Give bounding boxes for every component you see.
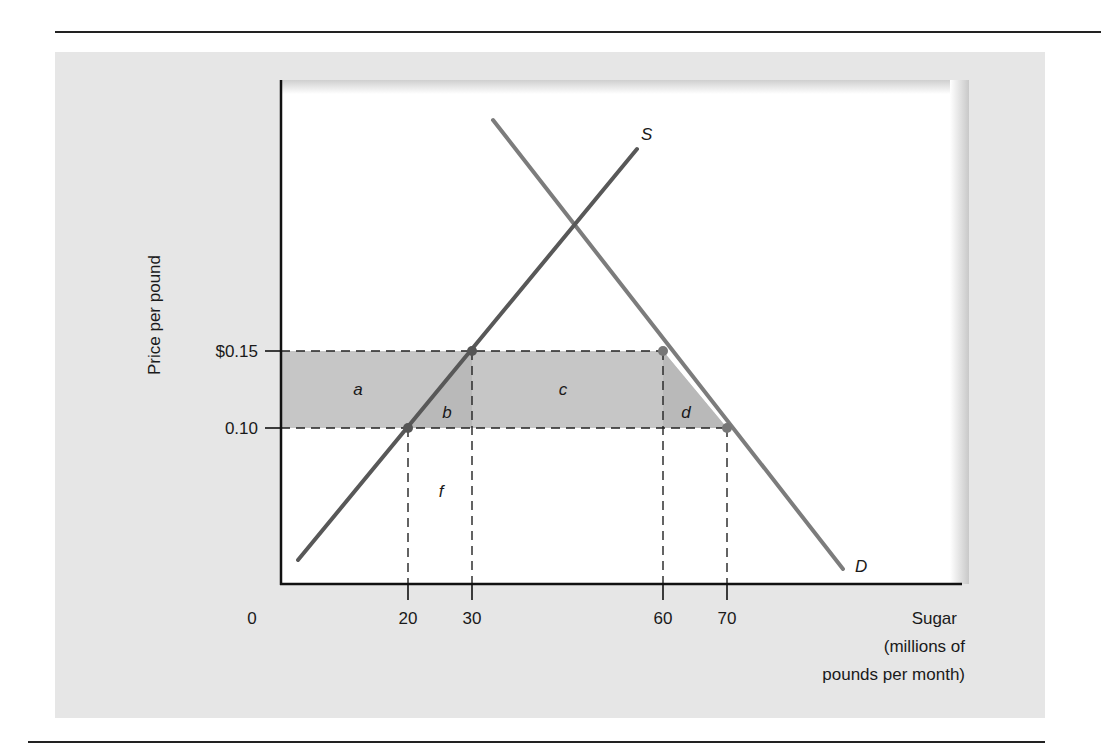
- plot-area: [281, 80, 969, 584]
- shaded-region-a-b-c-d: [281, 351, 727, 428]
- origin-label: 0: [247, 609, 256, 628]
- supply-label: S: [641, 125, 653, 144]
- demand-label: D: [855, 557, 867, 576]
- point-q20-p010: [403, 423, 413, 433]
- y-tick-label-015: $0.15: [215, 342, 258, 361]
- point-q30-p015: [467, 346, 477, 356]
- x-tick-label-30: 30: [463, 609, 482, 628]
- x-tick-label-20: 20: [399, 609, 418, 628]
- y-tick-label-010: 0.10: [225, 419, 258, 438]
- plot-top-shadow: [281, 80, 969, 94]
- plot-right-shadow: [950, 80, 969, 584]
- y-axis-title: Price per pound: [145, 255, 164, 375]
- x-axis-title-line1: Sugar: [912, 609, 958, 628]
- x-tick-label-70: 70: [718, 609, 737, 628]
- point-q70-p010: [722, 423, 732, 433]
- x-tick-label-60: 60: [654, 609, 673, 628]
- area-label-d: d: [681, 403, 691, 422]
- point-q60-p015: [658, 346, 668, 356]
- supply-demand-chart: $0.15 0.10 0 20 30 60 70 Price per pound…: [0, 0, 1101, 753]
- area-label-b: b: [442, 403, 451, 422]
- area-label-a: a: [353, 380, 362, 399]
- x-axis-title-line2: (millions of: [884, 637, 966, 656]
- x-axis-title-line3: pounds per month): [822, 665, 965, 684]
- area-label-c: c: [559, 380, 568, 399]
